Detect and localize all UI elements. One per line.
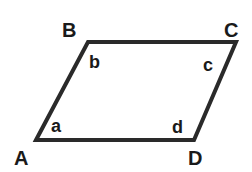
- vertex-label-c: C: [224, 19, 238, 41]
- angle-label-d: d: [172, 117, 183, 137]
- vertex-label-b: B: [62, 19, 76, 41]
- angle-label-b: b: [89, 52, 100, 72]
- vertex-label-d: D: [188, 147, 202, 169]
- diagram-svg: B C A D b c a d: [0, 0, 252, 172]
- vertex-label-a: A: [14, 147, 28, 169]
- parallelogram-diagram: B C A D b c a d: [0, 0, 252, 172]
- angle-label-c: c: [203, 55, 213, 75]
- angle-label-a: a: [51, 116, 62, 136]
